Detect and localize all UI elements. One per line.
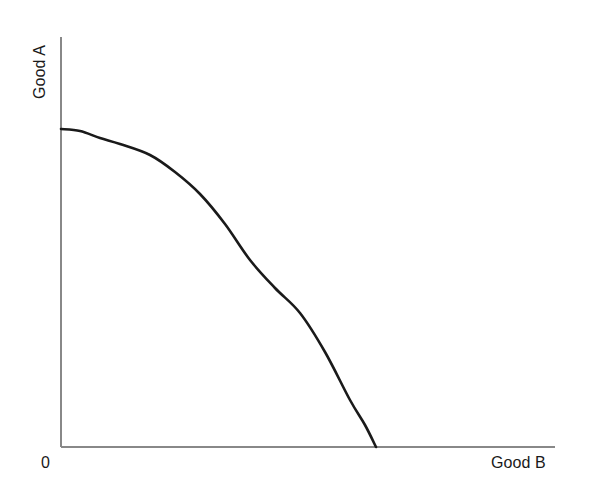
x-axis-label: Good B bbox=[491, 454, 546, 471]
plot-background bbox=[0, 0, 597, 497]
ppf-chart-figure: Good A Good B 0 bbox=[0, 0, 597, 497]
origin-tick-label: 0 bbox=[41, 454, 50, 471]
y-axis-label: Good A bbox=[8, 64, 70, 81]
plot-canvas bbox=[0, 0, 597, 497]
y-axis-label-text: Good A bbox=[30, 45, 47, 99]
